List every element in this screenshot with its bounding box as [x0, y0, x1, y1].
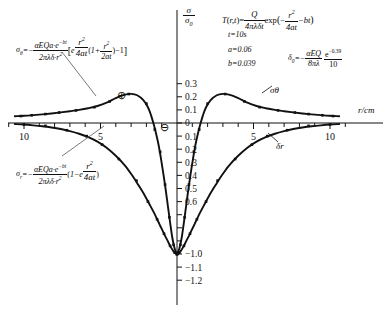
- data-point-marker: [193, 151, 196, 154]
- y-tick-label: 0: [185, 118, 190, 128]
- y-tick-label: 0.5: [185, 184, 197, 194]
- data-point-marker: [101, 143, 104, 146]
- curve-label-sigma-r: δr: [276, 142, 284, 151]
- x-axis-title: r/cm: [358, 106, 375, 115]
- data-point-marker: [234, 158, 237, 161]
- curve-σr: [15, 124, 177, 254]
- formula-temperature: T(r,t)= Q 4πλδt exp(− r2 4at −bt): [222, 9, 314, 32]
- data-point-marker: [224, 93, 227, 96]
- y-tick-label: −1.0: [185, 249, 202, 259]
- data-point-marker: [183, 245, 186, 248]
- data-point-marker: [243, 100, 246, 103]
- data-point-marker: [159, 151, 162, 154]
- data-point-marker: [178, 251, 181, 254]
- data-point-marker: [198, 128, 201, 131]
- x-tick-label: 5: [98, 131, 103, 142]
- y-tick-label: 0.1: [185, 132, 197, 142]
- data-point-marker: [128, 93, 131, 96]
- data-point-marker: [58, 111, 61, 114]
- y-tick-label: 0.2: [185, 92, 197, 102]
- data-point-marker: [294, 111, 297, 114]
- data-point-marker: [145, 102, 148, 105]
- data-point-marker: [30, 114, 33, 117]
- x-tick-label: 10: [19, 131, 29, 142]
- data-point-marker: [179, 244, 182, 247]
- data-point-marker: [108, 100, 111, 103]
- minus-region-marker: ⊖: [160, 122, 169, 133]
- data-point-marker: [321, 114, 324, 117]
- data-point-marker: [196, 218, 199, 221]
- figure-thermal-stress-plot: 1055100.30.20.100.10.20.30.40.50.6−1.0−1…: [0, 0, 391, 318]
- data-point-marker: [286, 129, 289, 132]
- data-point-marker: [93, 106, 96, 109]
- x-tick-label: 5: [251, 131, 256, 142]
- data-point-marker: [307, 113, 310, 116]
- formula-sigma-theta: σθ=− αEQa·e−bt 2πλδ·r2 [e r2 4at (1+ r2 …: [16, 36, 127, 62]
- param-time: t=10s: [228, 31, 247, 39]
- data-point-marker: [147, 200, 150, 203]
- data-point-marker: [154, 128, 157, 131]
- data-point-marker: [163, 232, 166, 235]
- data-point-marker: [206, 102, 209, 105]
- y-axis-title-denominator: σ0: [183, 16, 195, 27]
- data-point-marker: [183, 216, 186, 219]
- data-point-marker: [173, 251, 176, 254]
- data-point-marker: [307, 125, 310, 128]
- curve-σr: [177, 124, 339, 254]
- curve-σθ: [177, 94, 339, 254]
- data-point-marker: [216, 179, 219, 182]
- param-b: b=0.039: [228, 60, 255, 68]
- plus-region-marker: ⊕: [117, 90, 126, 101]
- data-point-marker: [176, 253, 179, 256]
- data-point-marker: [168, 216, 171, 219]
- data-point-marker: [118, 158, 121, 161]
- data-point-marker: [258, 106, 261, 109]
- data-point-marker: [44, 125, 47, 128]
- formula-sigma-r: σr=− αEQa·e−bt 2πλδ·r2 (1−e r2 4at ): [16, 160, 99, 186]
- param-a: a=0.06: [228, 46, 251, 54]
- data-point-marker: [188, 183, 191, 186]
- data-point-marker: [66, 129, 69, 132]
- data-point-marker: [75, 109, 78, 112]
- data-point-marker: [20, 115, 23, 118]
- data-point-marker: [266, 135, 269, 138]
- data-point-marker: [251, 143, 254, 146]
- data-point-marker: [135, 179, 138, 182]
- data-point-marker: [164, 183, 167, 186]
- y-tick-label: 0.3: [185, 79, 197, 89]
- y-tick-label: −1.2: [185, 276, 202, 286]
- data-point-marker: [172, 244, 175, 247]
- x-tick-label: 10: [325, 131, 335, 142]
- data-point-marker: [205, 200, 208, 203]
- data-point-marker: [329, 123, 332, 126]
- y-tick-label: 0.1: [185, 105, 197, 115]
- data-point-marker: [23, 123, 26, 126]
- data-point-marker: [277, 109, 280, 112]
- formula-delta-zero: δ0=− αEQ 8πλ e−0.39 10: [288, 48, 342, 69]
- data-point-marker: [85, 135, 88, 138]
- curve-label-sigma-theta: σθ: [270, 86, 279, 95]
- y-axis-title: σ σ0: [183, 6, 195, 27]
- data-point-marker: [169, 245, 172, 248]
- data-point-marker: [44, 113, 47, 116]
- data-point-marker: [189, 232, 192, 235]
- y-tick-label: −1.1: [185, 263, 202, 273]
- data-point-marker: [156, 218, 159, 221]
- data-point-marker: [332, 115, 335, 118]
